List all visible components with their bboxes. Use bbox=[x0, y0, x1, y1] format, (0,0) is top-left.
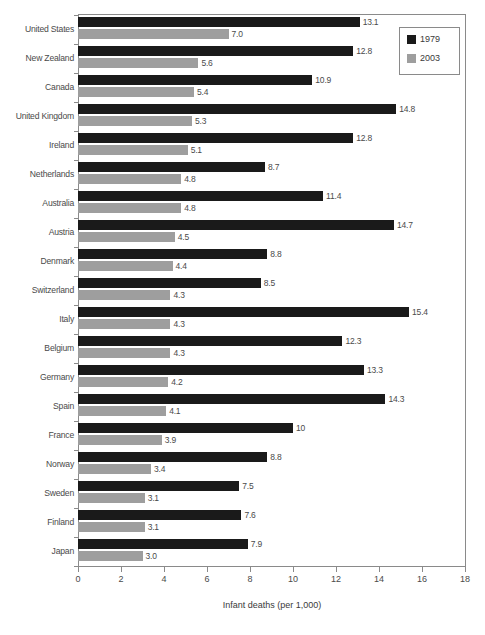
x-axis-tick-label: 6 bbox=[204, 574, 209, 584]
bar-1979 bbox=[78, 162, 265, 172]
bar-group: 8.54.3 bbox=[78, 276, 465, 305]
bar-1979 bbox=[78, 394, 385, 404]
bar-2003 bbox=[78, 145, 188, 155]
bar-group: 7.93.0 bbox=[78, 537, 465, 566]
bar-group: 10.95.4 bbox=[78, 73, 465, 102]
legend-item-2003: 2003 bbox=[407, 54, 440, 63]
bar-1979 bbox=[78, 46, 353, 56]
bar-value-label: 13.1 bbox=[363, 17, 379, 27]
bars-container: 13.17.012.85.610.95.414.85.312.85.18.74.… bbox=[78, 15, 465, 566]
y-axis-label-new-zealand: New Zealand bbox=[0, 53, 74, 63]
bar-value-label: 7.5 bbox=[242, 481, 253, 491]
x-axis-tick bbox=[336, 567, 337, 572]
bar-value-label: 10.9 bbox=[315, 75, 331, 85]
bar-group: 14.85.3 bbox=[78, 102, 465, 131]
bar-value-label: 3.4 bbox=[154, 464, 165, 474]
y-axis-label-finland: Finland bbox=[0, 517, 74, 527]
bar-value-label: 14.8 bbox=[399, 104, 415, 114]
bar-value-label: 12.8 bbox=[356, 46, 372, 56]
bar-group: 103.9 bbox=[78, 421, 465, 450]
bar-2003 bbox=[78, 522, 145, 532]
bar-value-label: 10 bbox=[296, 423, 305, 433]
chart-legend: 1979 2003 bbox=[399, 27, 460, 75]
bar-value-label: 15.4 bbox=[412, 307, 428, 317]
x-axis-tick bbox=[121, 567, 122, 572]
bar-group: 8.83.4 bbox=[78, 450, 465, 479]
x-axis-tick-label: 18 bbox=[460, 574, 470, 584]
x-axis-tick bbox=[250, 567, 251, 572]
bar-1979 bbox=[78, 336, 342, 346]
bar-value-label: 3.0 bbox=[146, 551, 157, 561]
bar-1979 bbox=[78, 17, 360, 27]
bar-value-label: 3.1 bbox=[148, 493, 159, 503]
x-axis-tick-label: 10 bbox=[288, 574, 298, 584]
y-axis-label-switzerland: Switzerland bbox=[0, 285, 74, 295]
bar-group: 14.34.1 bbox=[78, 392, 465, 421]
bar-2003 bbox=[78, 203, 181, 213]
bar-1979 bbox=[78, 133, 353, 143]
bar-group: 11.44.8 bbox=[78, 189, 465, 218]
bar-1979 bbox=[78, 481, 239, 491]
bar-value-label: 5.6 bbox=[201, 58, 212, 68]
bar-value-label: 3.9 bbox=[165, 435, 176, 445]
y-axis-label-ireland: Ireland bbox=[0, 140, 74, 150]
bar-2003 bbox=[78, 348, 170, 358]
bar-value-label: 14.7 bbox=[397, 220, 413, 230]
y-axis-label-france: France bbox=[0, 430, 74, 440]
bar-value-label: 7.0 bbox=[232, 29, 243, 39]
bar-value-label: 12.3 bbox=[345, 336, 361, 346]
bar-value-label: 4.1 bbox=[169, 406, 180, 416]
bar-1979 bbox=[78, 220, 394, 230]
bar-value-label: 4.5 bbox=[178, 232, 189, 242]
bar-value-label: 7.6 bbox=[244, 510, 255, 520]
bar-value-label: 8.5 bbox=[264, 278, 275, 288]
bar-group: 14.74.5 bbox=[78, 218, 465, 247]
x-axis-tick bbox=[379, 567, 380, 572]
bar-value-label: 5.4 bbox=[197, 87, 208, 97]
bar-value-label: 4.3 bbox=[173, 319, 184, 329]
bar-group: 8.84.4 bbox=[78, 247, 465, 276]
bar-value-label: 8.8 bbox=[270, 249, 281, 259]
legend-label-1979: 1979 bbox=[420, 35, 440, 44]
y-axis-label-germany: Germany bbox=[0, 372, 74, 382]
bar-2003 bbox=[78, 406, 166, 416]
bar-value-label: 4.8 bbox=[184, 174, 195, 184]
bar-2003 bbox=[78, 116, 192, 126]
x-axis-tick bbox=[78, 567, 79, 572]
bar-value-label: 5.1 bbox=[191, 145, 202, 155]
bar-group: 8.74.8 bbox=[78, 160, 465, 189]
bar-2003 bbox=[78, 493, 145, 503]
bar-2003 bbox=[78, 87, 194, 97]
bar-2003 bbox=[78, 290, 170, 300]
bar-1979 bbox=[78, 365, 364, 375]
bar-group: 7.53.1 bbox=[78, 479, 465, 508]
bar-1979 bbox=[78, 452, 267, 462]
bar-group: 13.34.2 bbox=[78, 363, 465, 392]
bar-2003 bbox=[78, 435, 162, 445]
bar-1979 bbox=[78, 423, 293, 433]
bar-value-label: 4.4 bbox=[176, 261, 187, 271]
bar-2003 bbox=[78, 232, 175, 242]
bar-value-label: 11.4 bbox=[326, 191, 341, 201]
x-axis-tick-label: 0 bbox=[75, 574, 80, 584]
bar-1979 bbox=[78, 249, 267, 259]
bar-value-label: 4.3 bbox=[173, 290, 184, 300]
legend-swatch-2003 bbox=[407, 54, 416, 63]
x-axis-tick-label: 12 bbox=[331, 574, 341, 584]
x-axis-tick bbox=[164, 567, 165, 572]
y-axis-label-denmark: Denmark bbox=[0, 256, 74, 266]
x-axis-ticks bbox=[78, 567, 466, 572]
y-axis-category-labels: United StatesNew ZealandCanadaUnited Kin… bbox=[0, 15, 74, 566]
y-axis-label-spain: Spain bbox=[0, 401, 74, 411]
y-axis-label-united-states: United States bbox=[0, 24, 74, 34]
bar-2003 bbox=[78, 551, 143, 561]
bar-value-label: 13.3 bbox=[367, 365, 383, 375]
y-axis-label-australia: Australia bbox=[0, 198, 74, 208]
bar-group: 12.34.3 bbox=[78, 334, 465, 363]
y-axis-label-italy: Italy bbox=[0, 314, 74, 324]
bar-value-label: 4.3 bbox=[173, 348, 184, 358]
x-axis-title: Infant deaths (per 1,000) bbox=[78, 600, 466, 610]
legend-item-1979: 1979 bbox=[407, 35, 440, 44]
y-axis-label-sweden: Sweden bbox=[0, 488, 74, 498]
bar-2003 bbox=[78, 29, 229, 39]
